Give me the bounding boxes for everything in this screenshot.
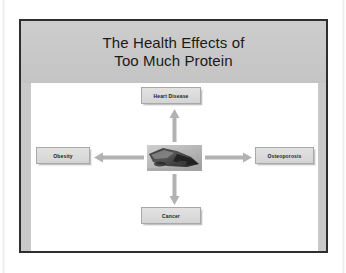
diagram-canvas: Heart Disease Obesity Osteoporosis Cance… [31, 83, 318, 251]
node-heart-disease[interactable]: Heart Disease [141, 87, 201, 104]
slide-title-line-2: Too Much Protein [114, 52, 232, 70]
arrow-up-icon [169, 109, 180, 142]
node-osteoporosis-label: Osteoporosis [267, 153, 301, 159]
scan-edge-left [2, 0, 5, 273]
center-meat-photo [147, 145, 202, 171]
node-obesity-label: Obesity [53, 153, 72, 159]
node-obesity[interactable]: Obesity [36, 147, 90, 164]
arrow-right-icon [205, 152, 252, 163]
presentation-slide: The Health Effects of Too Much Protein H… [19, 19, 328, 253]
slide-title-line-1: The Health Effects of [103, 34, 245, 52]
node-cancer[interactable]: Cancer [141, 207, 201, 224]
arrow-down-icon [169, 174, 180, 205]
node-osteoporosis[interactable]: Osteoporosis [255, 147, 314, 164]
slide-title-band: The Health Effects of Too Much Protein [21, 21, 326, 83]
arrow-left-icon [94, 152, 144, 163]
node-cancer-label: Cancer [162, 213, 180, 219]
scan-edge-right [342, 0, 345, 273]
node-heart-disease-label: Heart Disease [153, 93, 188, 99]
